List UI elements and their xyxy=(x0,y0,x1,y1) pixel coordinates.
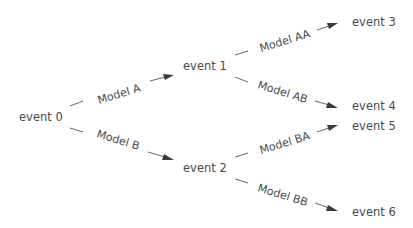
edge-label-model-ab: Model AB xyxy=(256,78,309,106)
arrowhead-icon xyxy=(327,125,338,131)
node-event-3: event 3 xyxy=(352,15,396,29)
edge-model-a: Model A xyxy=(70,74,174,107)
arrowhead-icon xyxy=(326,205,338,211)
node-event-2: event 2 xyxy=(183,161,227,175)
edge-model-ba: Model BA xyxy=(235,125,338,157)
node-event-6: event 6 xyxy=(352,205,396,219)
edge-label-model-ba: Model BA xyxy=(258,129,312,157)
arrowhead-icon xyxy=(326,102,338,108)
arrowhead-icon xyxy=(162,154,174,160)
arrowhead-icon xyxy=(327,23,338,29)
edge-label-model-aa: Model AA xyxy=(258,27,312,55)
event-tree-diagram: event 0 event 1 event 2 event 3 event 4 … xyxy=(0,0,413,228)
edge-label-model-bb: Model BB xyxy=(256,181,309,209)
node-event-1: event 1 xyxy=(183,59,227,73)
arrowhead-icon xyxy=(163,74,174,80)
edge-model-bb: Model BB xyxy=(235,179,338,211)
edge-model-aa: Model AA xyxy=(235,23,338,55)
node-event-0: event 0 xyxy=(19,110,63,124)
edge-model-b: Model B xyxy=(70,127,174,160)
edge-label-model-a: Model A xyxy=(96,81,142,106)
node-event-4: event 4 xyxy=(352,99,396,113)
edge-model-ab: Model AB xyxy=(235,77,338,108)
node-event-5: event 5 xyxy=(352,119,396,133)
edge-label-model-b: Model B xyxy=(95,127,141,152)
